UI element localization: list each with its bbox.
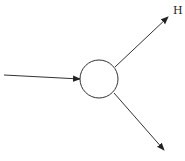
input-arrow (4, 75, 80, 79)
lower-output-arrow (114, 93, 164, 150)
node-circle (80, 60, 118, 98)
upper-arrow-label: H (173, 4, 183, 17)
upper-output-arrow (115, 17, 168, 67)
diagram-canvas (0, 0, 185, 161)
